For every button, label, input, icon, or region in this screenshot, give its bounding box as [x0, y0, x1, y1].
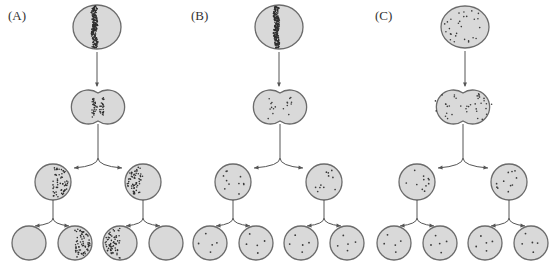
granddaughter-cell: [377, 226, 411, 260]
particle: [278, 40, 280, 42]
particle: [75, 244, 77, 246]
particle: [95, 109, 97, 111]
particle: [463, 11, 465, 13]
particle: [133, 187, 135, 189]
particle: [275, 7, 277, 9]
particle: [486, 250, 488, 252]
particle: [96, 40, 98, 42]
particle: [294, 234, 296, 236]
particle: [53, 191, 55, 193]
particle: [61, 173, 63, 175]
particle: [93, 110, 95, 112]
particle: [96, 18, 98, 20]
granddaughter-cell: [284, 226, 318, 260]
particle: [257, 252, 259, 254]
panel-b-label: (B): [191, 8, 208, 23]
particle: [274, 13, 276, 15]
cell-membrane: [284, 226, 318, 260]
division-arrow-left: [400, 200, 417, 226]
particle: [510, 185, 512, 187]
particle: [95, 43, 97, 45]
particle: [92, 38, 94, 40]
particle: [54, 169, 56, 171]
particle: [240, 176, 242, 178]
particle: [79, 230, 81, 232]
particle: [53, 186, 55, 188]
particle: [496, 183, 498, 185]
particle: [450, 33, 452, 35]
particle: [102, 114, 104, 116]
particle: [84, 251, 86, 253]
particle: [91, 12, 93, 14]
particle: [134, 184, 136, 186]
particle: [468, 106, 470, 108]
particle: [275, 32, 277, 34]
particle: [97, 41, 99, 43]
particle: [91, 14, 93, 16]
particle: [114, 236, 116, 238]
particle: [118, 235, 120, 237]
particle: [66, 180, 68, 182]
particle: [134, 193, 136, 195]
particle: [110, 246, 112, 248]
particle: [273, 32, 275, 34]
particle: [275, 25, 277, 27]
particle: [479, 27, 481, 29]
particle: [383, 243, 385, 245]
particle: [243, 183, 245, 185]
particle: [256, 244, 258, 246]
daughter-cell: [399, 164, 435, 200]
particle: [134, 176, 136, 178]
particle: [435, 100, 437, 102]
particle: [66, 185, 68, 187]
particle: [95, 26, 97, 28]
particle: [91, 35, 93, 37]
particle: [286, 102, 288, 104]
particle: [328, 175, 330, 177]
particle: [449, 105, 451, 107]
particle: [136, 169, 138, 171]
particle: [483, 100, 485, 102]
particle: [485, 108, 487, 110]
particle: [327, 172, 329, 174]
particle: [116, 253, 118, 255]
particle: [56, 169, 58, 171]
particle: [75, 251, 77, 253]
particle: [64, 185, 66, 187]
particle: [423, 175, 425, 177]
particle: [331, 170, 333, 172]
panel-a: (A): [8, 5, 183, 260]
particle: [274, 7, 276, 9]
particle: [205, 233, 207, 235]
particle: [103, 105, 105, 107]
particle: [428, 179, 430, 181]
particle: [93, 18, 95, 20]
particle: [278, 17, 280, 19]
particle: [94, 35, 96, 37]
particle: [61, 193, 63, 195]
division-arrow-left: [74, 124, 98, 168]
particle: [301, 251, 303, 253]
particle: [287, 105, 289, 107]
particle: [80, 241, 82, 243]
particle: [275, 9, 277, 11]
granddaughter-cell: [514, 226, 548, 260]
particle: [278, 45, 280, 47]
particle: [326, 171, 328, 173]
particle: [447, 118, 449, 120]
cell-membrane: [330, 226, 364, 260]
particle: [81, 243, 83, 245]
particle: [460, 105, 462, 107]
particle: [450, 19, 452, 21]
particle: [273, 14, 275, 16]
particle: [387, 234, 389, 236]
particle: [83, 243, 85, 245]
granddaughter-cell: [103, 226, 137, 260]
particle: [96, 37, 98, 39]
particle: [394, 244, 396, 246]
particle: [76, 231, 78, 233]
particle: [228, 183, 230, 185]
dividing-cell: [435, 90, 493, 124]
parent-cell: [441, 6, 489, 48]
particle: [119, 257, 121, 259]
